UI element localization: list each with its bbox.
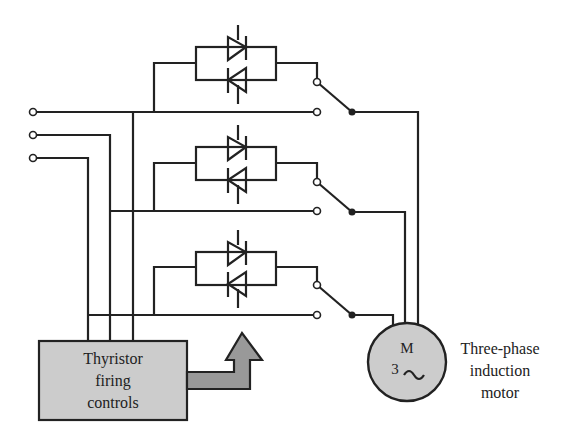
motor-phase-count: 3 [388,360,402,378]
switch-pivots [349,109,356,319]
motor-circle [368,323,446,401]
diagram-canvas: Thyristor firing controls M 3 Three-phas… [0,0,567,447]
firing-controls-label: Thyristor firing controls [39,348,187,414]
label-line: controls [39,392,187,414]
motor-label: Three-phase induction motor [440,338,560,404]
label-line: motor [440,382,560,404]
label-line: Thyristor [39,348,187,370]
motor-symbol: M [382,339,432,357]
thyristor-pair-1 [154,25,317,112]
label-line: induction [440,360,560,382]
thyristor-pair-3 [154,230,317,315]
label-line: Three-phase [440,338,560,360]
label-line: firing [39,370,187,392]
control-arrow [187,333,262,389]
bypass-switches [317,82,418,325]
thyristor-pair-2 [154,125,317,211]
